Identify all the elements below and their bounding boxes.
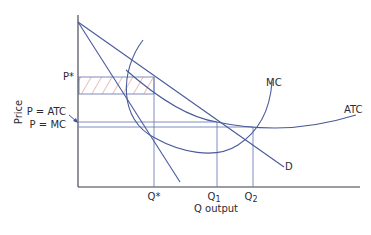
monopoly-diagram: Price Q output P* P = ATC P = MC Q* Q1 Q… (0, 0, 371, 235)
mc-curve (126, 40, 272, 153)
profit-area (79, 77, 154, 94)
demand-curve (78, 22, 284, 167)
atc-curve (126, 70, 356, 128)
p-star-label: P* (63, 71, 74, 82)
q2-label: Q2 (245, 191, 258, 204)
q-star-label: Q* (148, 191, 161, 202)
p-atc-label: P = ATC (27, 106, 66, 117)
x-axis-label: Q output (194, 203, 238, 214)
marginal-revenue-curve (78, 22, 180, 182)
atc-curve-label: ATC (344, 104, 363, 115)
demand-curve-label: D (285, 161, 293, 172)
p-mc-label: P = MC (30, 119, 66, 130)
mc-curve-label: MC (266, 77, 282, 88)
y-axis-label: Price (13, 100, 24, 124)
